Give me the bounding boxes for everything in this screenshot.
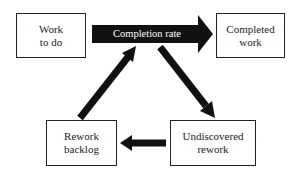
arrow-undiscovered-to-backlog	[120, 135, 166, 151]
node-label-line1: Completed	[226, 23, 274, 36]
node-label-line2: work	[226, 36, 274, 49]
node-completed-work: Completedwork	[216, 13, 285, 58]
completion-rate-label: Completion rate	[92, 27, 202, 41]
arrow-completion-to-undiscovered	[160, 47, 215, 118]
node-label-line1: Rework	[64, 130, 99, 143]
node-undiscovered-rework: Undiscoveredrework	[170, 120, 256, 166]
node-label-line2: to do	[39, 36, 63, 49]
node-rework-backlog: Reworkbacklog	[46, 120, 117, 166]
node-label-line2: backlog	[64, 143, 99, 156]
node-label-line1: Undiscovered	[182, 130, 243, 143]
node-label-line2: rework	[182, 143, 243, 156]
node-label-line1: Work	[39, 23, 63, 36]
arrow-backlog-to-completion	[80, 46, 136, 118]
node-work-to-do: Workto do	[16, 13, 86, 58]
